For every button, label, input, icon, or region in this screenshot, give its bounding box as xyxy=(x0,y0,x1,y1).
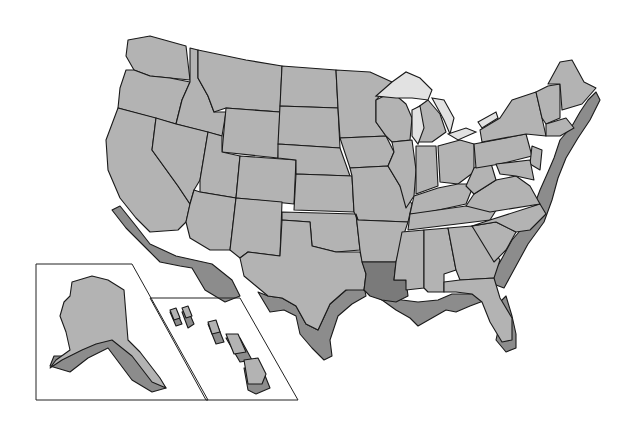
alaska-inset xyxy=(36,264,208,400)
map-svg xyxy=(0,0,625,426)
us-map: United States Louisiana xyxy=(0,0,625,426)
state-hawaii xyxy=(244,358,266,384)
hawaii-inset xyxy=(150,298,298,400)
